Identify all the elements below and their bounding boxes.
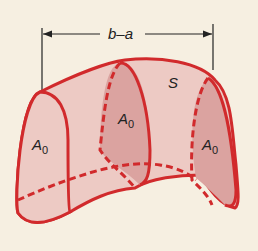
solid-figure-diagram: b–a S A0 A0 A0	[0, 0, 258, 251]
surface-label: S	[168, 74, 178, 91]
cross-section-left	[17, 92, 70, 222]
dimension-label: b–a	[108, 25, 133, 42]
